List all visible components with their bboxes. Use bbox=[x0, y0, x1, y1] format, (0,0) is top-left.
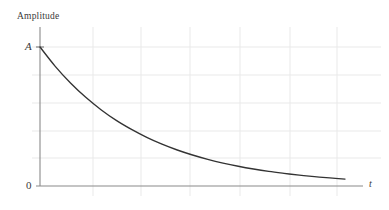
y-axis-tick-label-a: A bbox=[25, 40, 32, 52]
amplitude-decay-figure: Amplitude A 0 t bbox=[0, 0, 389, 210]
x-axis-title: t bbox=[369, 178, 372, 189]
amplitude-decay-curve bbox=[40, 47, 345, 179]
plot-canvas bbox=[0, 0, 389, 210]
y-axis-tick-label-zero: 0 bbox=[26, 179, 32, 191]
grid-lines-vertical bbox=[93, 27, 337, 196]
y-axis-title: Amplitude bbox=[17, 11, 59, 21]
grid-lines-horizontal bbox=[32, 47, 381, 158]
